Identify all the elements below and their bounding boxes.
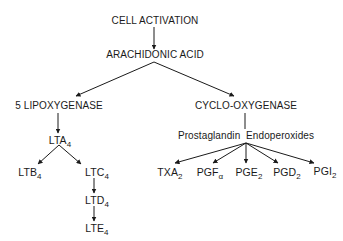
edge-aa-to-lox (76, 62, 154, 96)
node-arachidonic-acid: ARACHIDONIC ACID (106, 50, 204, 60)
node-pge2: PGE2 (235, 167, 262, 178)
node-cyclo-oxygenase: CYCLO-OXYGENASE (195, 101, 297, 111)
node-ltd4: LTD4 (85, 195, 109, 206)
node-pgf-alpha: PGFα (197, 167, 224, 178)
edge-endo-to-pgi2 (246, 143, 314, 163)
pathway-diagram: CELL ACTIVATION ARACHIDONIC ACID 5 LIPOX… (0, 0, 343, 241)
node-5-lipoxygenase: 5 LIPOXYGENASE (15, 101, 103, 111)
node-ltc4: LTC4 (85, 167, 109, 178)
node-pgi2: PGI2 (314, 166, 337, 177)
node-prostaglandin-endoperoxides: Prostaglandin Endoperoxides (178, 131, 314, 141)
node-cell-activation: CELL ACTIVATION (112, 16, 199, 26)
node-txa2: TXA2 (157, 167, 182, 178)
edge-endo-to-pgfa (213, 143, 246, 163)
node-ltb4: LTB4 (18, 167, 41, 178)
edge-lta4-to-ltb4 (38, 145, 59, 164)
node-lte4: LTE4 (85, 223, 108, 234)
edge-aa-to-cox (154, 62, 234, 96)
edge-endo-to-txa2 (175, 143, 246, 163)
node-lta4: LTA4 (49, 135, 72, 146)
edge-layer (0, 0, 343, 241)
edge-endo-to-pgd2 (246, 143, 278, 163)
node-pgd2: PGD2 (273, 167, 301, 178)
